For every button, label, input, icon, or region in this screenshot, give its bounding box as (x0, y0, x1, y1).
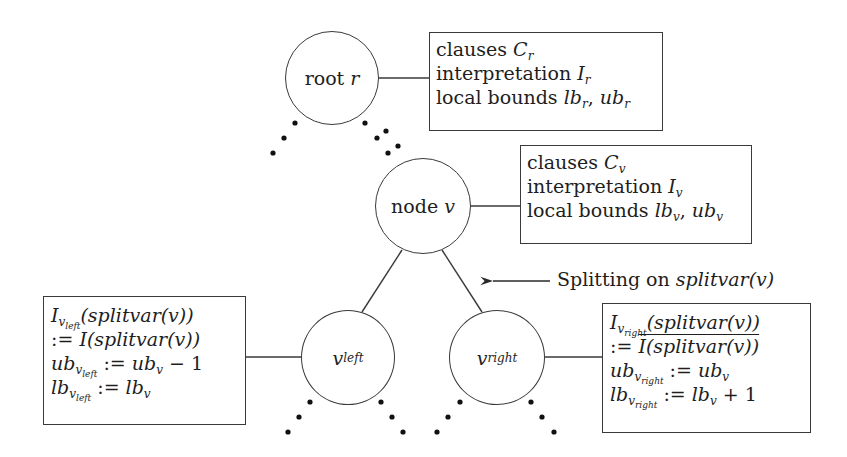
node-v: node v (375, 158, 471, 254)
edge-v-right (442, 250, 482, 312)
node-v-right-var: v (477, 347, 488, 369)
v-bounds-line: local bounds lbv, ubv (527, 198, 745, 222)
root-node-label: root (305, 67, 345, 89)
root-interpretation-line: interpretation Ir (436, 61, 656, 85)
v-interpretation-line: interpretation Iv (527, 174, 745, 198)
node-v-left-var: v (333, 347, 344, 369)
root-info-box: clauses Cr interpretation Ir local bound… (429, 32, 663, 131)
left-assign-line: := I(splitvar(v)) (51, 327, 238, 351)
left-ub-line: ubvleft := ubv − 1 (51, 351, 238, 375)
left-child-info-box: Ivleft(splitvar(v)) := I(splitvar(v)) ub… (43, 296, 246, 425)
right-ub-line: ubvright := ubv (610, 358, 803, 382)
splitting-label: Splitting on splitvar(v) (557, 268, 774, 290)
negated-interpretation: I(splitvar(v)) (638, 335, 759, 357)
node-v-left: vleft (301, 310, 395, 405)
right-assign-line: := I(splitvar(v)) (610, 334, 803, 358)
node-v-var: v (444, 195, 455, 217)
right-lb-line: lbvright := lbv + 1 (610, 382, 803, 406)
left-interp-line: Ivleft(splitvar(v)) (51, 303, 238, 327)
root-clauses-line: clauses Cr (436, 37, 656, 61)
right-child-info-box: Ivright(splitvar(v)) := I(splitvar(v)) u… (602, 303, 811, 433)
left-lb-line: lbvleft := lbv (51, 375, 238, 399)
root-bounds-line: local bounds lbr, ubr (436, 85, 656, 109)
node-v-right: vright (449, 310, 545, 405)
v-clauses-line: clauses Cv (527, 150, 745, 174)
edge-v-left (362, 250, 402, 312)
node-v-label: node (391, 195, 438, 217)
right-interp-line: Ivright(splitvar(v)) (610, 310, 803, 334)
root-node-var: r (350, 67, 359, 89)
node-v-info-box: clauses Cv interpretation Iv local bound… (520, 145, 752, 244)
root-node: root r (285, 31, 379, 125)
